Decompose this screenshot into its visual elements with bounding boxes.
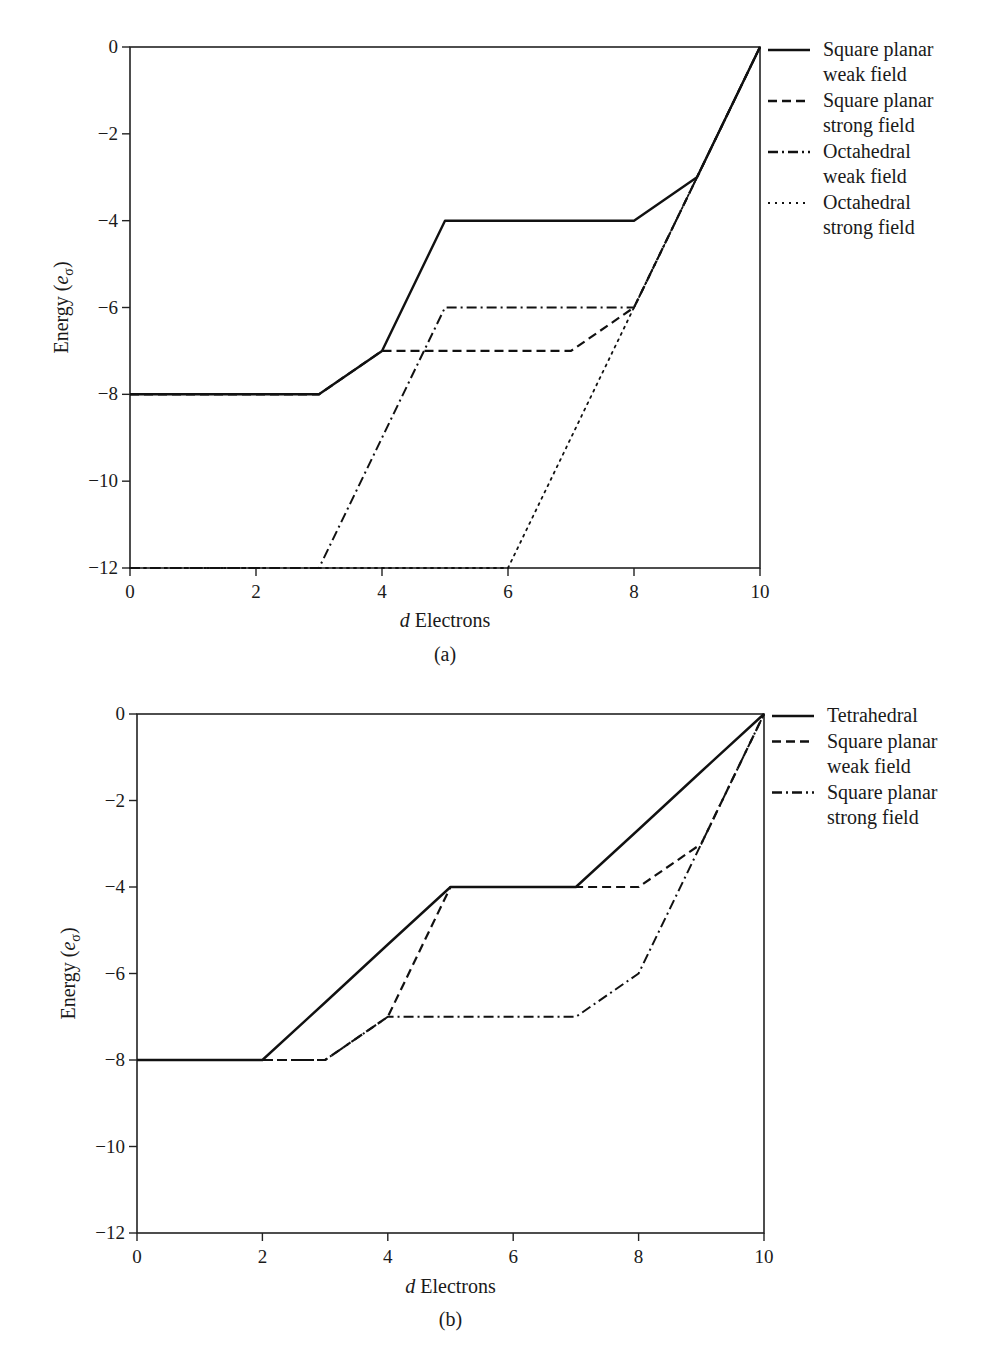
x-tick-label: 0 [132,1246,142,1267]
legend: Square planarweak fieldSquare planarstro… [768,38,934,239]
plot-frame [137,714,764,1233]
legend-label: Square planar [827,730,938,753]
legend-label: strong field [823,114,915,137]
y-tick-label: −4 [105,876,126,897]
x-tick-label: 4 [377,581,387,602]
y-tick-label: −8 [105,1049,125,1070]
x-tick-label: 8 [629,581,639,602]
legend-label: weak field [827,755,911,777]
x-axis-title: d Electrons [405,1275,496,1297]
y-tick-label: 0 [109,36,119,57]
y-tick-label: 0 [116,703,126,724]
x-tick-label: 6 [508,1246,518,1267]
x-tick-label: 10 [755,1246,774,1267]
series-line-tetrahedral [137,714,764,1060]
y-tick-label: −4 [98,210,119,231]
figure: 0−2−4−6−8−10−120246810Energy (eσ)d Elect… [0,0,1003,1359]
series-line-square-planar-weak-field [130,47,760,394]
legend-label: Octahedral [823,140,911,162]
y-tick-label: −12 [95,1222,125,1243]
x-tick-label: 2 [258,1246,268,1267]
y-tick-label: −8 [98,383,118,404]
series-line-octahedral-weak-field [130,47,760,568]
series-line-octahedral-strong-field [130,47,760,568]
y-tick-label: −12 [88,557,118,578]
legend-label: Octahedral [823,191,911,213]
legend-label: strong field [827,806,919,829]
y-axis-title: Energy (eσ) [50,261,76,353]
legend-label: weak field [823,63,907,85]
legend-label: Square planar [823,38,934,61]
x-tick-label: 8 [634,1246,644,1267]
x-tick-label: 0 [125,581,135,602]
y-tick-label: −10 [95,1136,125,1157]
plot-frame [130,47,760,568]
legend-label: Square planar [823,89,934,112]
x-tick-label: 6 [503,581,513,602]
y-tick-label: −2 [105,790,125,811]
x-tick-label: 2 [251,581,261,602]
chart-panel-a: 0−2−4−6−8−10−120246810Energy (eσ)d Elect… [50,36,934,666]
x-tick-label: 4 [383,1246,393,1267]
y-tick-label: −6 [98,297,118,318]
y-tick-label: −10 [88,470,118,491]
x-axis-title: d Electrons [400,609,491,631]
legend-label: Tetrahedral [827,704,918,726]
x-tick-label: 10 [751,581,770,602]
chart-panel-b: 0−2−4−6−8−10−120246810Energy (eσ)d Elect… [57,703,938,1331]
panel-caption: (b) [439,1308,462,1331]
y-tick-label: −2 [98,123,118,144]
legend: TetrahedralSquare planarweak fieldSquare… [772,704,938,829]
legend-label: Square planar [827,781,938,804]
legend-label: weak field [823,165,907,187]
panel-caption: (a) [434,643,456,666]
y-tick-label: −6 [105,963,125,984]
y-axis-title: Energy (eσ) [57,927,83,1019]
legend-label: strong field [823,216,915,239]
